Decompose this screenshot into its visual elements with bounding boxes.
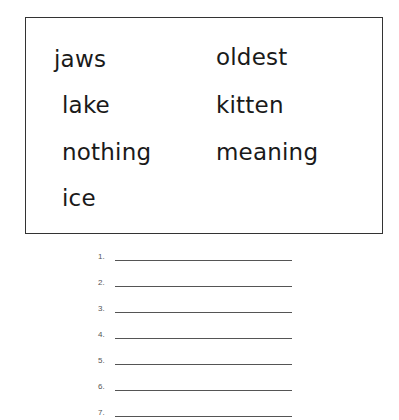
line-number: 5. [98, 356, 105, 365]
blank-line[interactable] [115, 416, 292, 417]
blank-line[interactable] [115, 312, 292, 313]
answer-line-4[interactable]: 4. [98, 330, 298, 344]
answer-line-1[interactable]: 1. [98, 252, 298, 266]
line-number: 6. [98, 382, 105, 391]
answer-line-6[interactable]: 6. [98, 382, 298, 396]
answer-line-7[interactable]: 7. [98, 408, 298, 420]
answer-line-2[interactable]: 2. [98, 278, 298, 292]
word-nothing: nothing [62, 139, 151, 165]
word-ice: ice [62, 185, 96, 211]
blank-line[interactable] [115, 286, 292, 287]
line-number: 2. [98, 278, 105, 287]
word-jaws: jaws [54, 46, 106, 72]
blank-line[interactable] [115, 364, 292, 365]
blank-line[interactable] [115, 390, 292, 391]
line-number: 3. [98, 304, 105, 313]
answer-line-3[interactable]: 3. [98, 304, 298, 318]
line-number: 1. [98, 252, 105, 261]
word-meaning: meaning [216, 139, 318, 165]
answer-line-5[interactable]: 5. [98, 356, 298, 370]
blank-line[interactable] [115, 260, 292, 261]
line-number: 7. [98, 408, 105, 417]
word-lake: lake [62, 92, 110, 118]
word-oldest: oldest [216, 44, 287, 70]
line-number: 4. [98, 330, 105, 339]
blank-line[interactable] [115, 338, 292, 339]
word-kitten: kitten [216, 92, 284, 118]
